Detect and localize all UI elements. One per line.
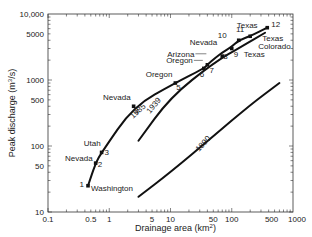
x-tick-label: 500 — [265, 215, 279, 224]
point-number: 6 — [200, 70, 205, 79]
plot-frame — [48, 14, 293, 212]
point-number: 2 — [98, 160, 103, 169]
point-number: 3 — [105, 148, 110, 157]
y-tick-label: 10 — [35, 208, 44, 217]
point-number: 10 — [218, 31, 227, 40]
peak-discharge-chart: 0.10.51510501005001000105010050010005000… — [0, 0, 312, 237]
state-label: Colorado — [258, 42, 291, 51]
data-point-3 — [100, 151, 104, 155]
state-label: Washington — [91, 184, 133, 193]
state-label: Arizona — [167, 50, 195, 59]
x-tick-label: 1000 — [288, 215, 306, 224]
y-tick-label: 1000 — [26, 76, 44, 85]
state-label: Oregon — [146, 70, 173, 79]
state-label: Texas — [237, 21, 258, 30]
x-axis-label: Drainage area (km2) — [135, 223, 216, 233]
state-label: Nevada — [103, 93, 131, 102]
y-tick-label: 10,000 — [20, 10, 45, 19]
x-tick-label: 0.5 — [85, 215, 97, 224]
x-tick-label: 100 — [225, 215, 239, 224]
data-point-1 — [86, 184, 90, 188]
point-number: 5 — [176, 83, 181, 92]
y-tick-label: 500 — [31, 96, 45, 105]
curve-label-1890: 1890 — [194, 134, 213, 154]
state-label: Nevada — [65, 154, 93, 163]
x-tick-label: 1 — [107, 215, 112, 224]
point-number: 8 — [223, 52, 228, 61]
data-point-10 — [237, 38, 241, 42]
point-number: 12 — [271, 20, 280, 29]
y-tick-label: 50 — [35, 162, 44, 171]
point-number: 1 — [80, 180, 85, 189]
y-axis-label: Peak discharge (m3/s) — [7, 69, 17, 157]
state-label: Texas — [262, 34, 283, 43]
state-label: Utah — [84, 139, 101, 148]
point-number: 9 — [234, 50, 239, 59]
data-point-11 — [248, 34, 252, 38]
y-tick-label: 100 — [31, 142, 45, 151]
y-tick-label: 5000 — [26, 30, 44, 39]
data-point-12 — [265, 26, 269, 30]
x-tick-label: 0.1 — [42, 215, 54, 224]
state-label: Nevada — [190, 38, 218, 47]
point-number: 7 — [209, 66, 214, 75]
